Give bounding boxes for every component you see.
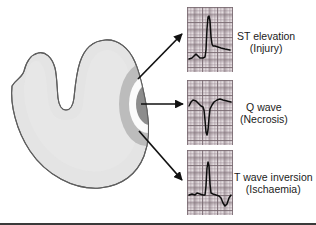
ecg-label-q-wave: Q wave (Necrosis) bbox=[240, 101, 288, 126]
ecg-label-primary: ST elevation bbox=[237, 30, 295, 42]
necrosis-core bbox=[136, 83, 164, 125]
ecg-label-st-elevation: ST elevation (Injury) bbox=[237, 30, 295, 55]
ecg-label-primary: T wave inversion bbox=[234, 171, 313, 183]
myocardial-cross-section bbox=[0, 18, 170, 198]
ecg-strip-q-wave bbox=[187, 80, 233, 145]
ecg-trace-line bbox=[189, 16, 230, 59]
ecg-label-secondary: (Necrosis) bbox=[240, 113, 288, 125]
ecg-waveform-q-wave bbox=[187, 80, 233, 145]
figure-bottom-border bbox=[0, 223, 316, 225]
ecg-strip-st-elevation bbox=[187, 7, 233, 72]
ecg-label-t-wave-inversion: T wave inversion (Ischaemia) bbox=[234, 171, 313, 196]
ecg-strip-t-wave-inversion bbox=[187, 150, 233, 215]
ecg-label-secondary: (Injury) bbox=[237, 42, 295, 54]
ecg-trace-line bbox=[189, 99, 231, 135]
ecg-waveform-t-wave-inversion bbox=[187, 150, 233, 215]
ecg-waveform-st-elevation bbox=[187, 7, 233, 72]
ecg-infarct-figure: ST elevation (Injury) Q wave (Necrosis) … bbox=[0, 0, 316, 225]
ecg-label-primary: Q wave bbox=[240, 101, 288, 113]
ecg-label-secondary: (Ischaemia) bbox=[234, 183, 313, 195]
ecg-trace-line bbox=[189, 162, 231, 206]
